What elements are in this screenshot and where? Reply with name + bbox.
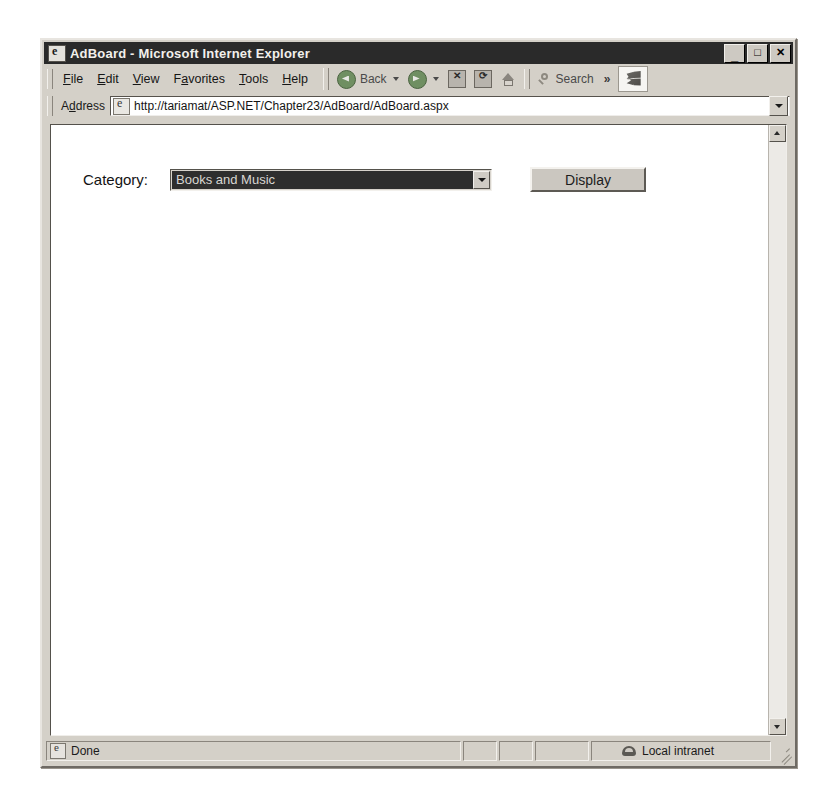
menu-item-edit[interactable]: Edit bbox=[90, 70, 126, 88]
forward-arrow-icon bbox=[408, 70, 427, 89]
page-icon bbox=[113, 98, 130, 115]
home-button[interactable] bbox=[496, 70, 521, 89]
chevron-down-icon[interactable] bbox=[473, 171, 490, 189]
browser-window: AdBoard - Microsoft Internet Explorer _ … bbox=[40, 38, 797, 768]
address-input[interactable]: http://tariamat/ASP.NET/Chapter23/AdBoar… bbox=[110, 96, 790, 116]
menu-item-tools[interactable]: Tools bbox=[232, 70, 275, 88]
status-message: Done bbox=[71, 744, 100, 758]
minimize-button[interactable]: _ bbox=[724, 44, 745, 63]
search-icon bbox=[537, 72, 552, 87]
window-title: AdBoard - Microsoft Internet Explorer bbox=[70, 46, 722, 61]
search-button-label: Search bbox=[556, 72, 594, 86]
back-arrow-icon bbox=[337, 70, 356, 89]
title-bar[interactable]: AdBoard - Microsoft Internet Explorer _ … bbox=[44, 42, 793, 64]
security-zone-label: Local intranet bbox=[642, 744, 714, 758]
close-icon: ✕ bbox=[771, 45, 790, 60]
status-cell-blank-1 bbox=[463, 741, 497, 761]
status-bar: Done Local intranet bbox=[46, 740, 791, 762]
minimize-icon: _ bbox=[725, 51, 744, 61]
status-cell-blank-3 bbox=[535, 741, 589, 761]
address-bar: Address http://tariamat/ASP.NET/Chapter2… bbox=[44, 93, 793, 119]
home-icon bbox=[500, 72, 517, 87]
page-viewport: Category: Books and Music Display bbox=[50, 124, 787, 736]
status-message-cell: Done bbox=[46, 741, 461, 761]
category-form-row: Category: Books and Music Display bbox=[83, 167, 646, 192]
window-icon bbox=[48, 45, 66, 62]
stop-icon: ✕ bbox=[448, 70, 466, 88]
forward-button[interactable] bbox=[404, 68, 431, 91]
category-selected-value: Books and Music bbox=[172, 171, 473, 189]
address-url-text: http://tariamat/ASP.NET/Chapter23/AdBoar… bbox=[134, 99, 769, 113]
back-button[interactable]: Back bbox=[333, 68, 391, 91]
toolbar-overflow-button[interactable]: » bbox=[598, 72, 617, 86]
windows-logo-icon[interactable] bbox=[618, 66, 648, 92]
stop-button[interactable]: ✕ bbox=[444, 68, 470, 90]
back-history-chevron-down-icon[interactable] bbox=[393, 77, 399, 81]
menu-item-help[interactable]: Help bbox=[275, 70, 315, 88]
search-group-handle[interactable] bbox=[524, 69, 530, 89]
address-chevron-down-icon[interactable] bbox=[769, 96, 788, 116]
document-icon bbox=[50, 743, 66, 759]
menu-toolbar-row: File Edit View Favorites Tools Help Back… bbox=[44, 65, 793, 93]
display-button[interactable]: Display bbox=[530, 167, 646, 192]
scrollbar-track[interactable] bbox=[769, 142, 786, 718]
back-button-label: Back bbox=[360, 72, 387, 86]
status-cell-blank-2 bbox=[499, 741, 533, 761]
refresh-button[interactable]: ⟳ bbox=[470, 68, 496, 90]
menu-item-favorites[interactable]: Favorites bbox=[167, 70, 232, 88]
refresh-icon: ⟳ bbox=[474, 70, 492, 88]
refresh-glyph: ⟳ bbox=[475, 70, 491, 81]
screen: AdBoard - Microsoft Internet Explorer _ … bbox=[0, 0, 833, 800]
stop-glyph: ✕ bbox=[449, 70, 465, 81]
address-label: Address bbox=[56, 99, 110, 113]
security-zone-cell[interactable]: Local intranet bbox=[591, 741, 771, 761]
local-intranet-icon bbox=[622, 745, 637, 758]
scroll-down-button[interactable] bbox=[769, 718, 786, 735]
page-content: Category: Books and Music Display bbox=[51, 125, 768, 735]
toolbar-drag-handle[interactable] bbox=[323, 68, 329, 90]
menu-item-view[interactable]: View bbox=[126, 70, 167, 88]
scroll-up-button[interactable] bbox=[769, 125, 786, 142]
page-vertical-scrollbar[interactable] bbox=[768, 125, 786, 735]
address-drag-handle[interactable] bbox=[47, 96, 53, 116]
menu-item-file[interactable]: File bbox=[56, 70, 90, 88]
maximize-button[interactable]: □ bbox=[747, 44, 768, 63]
category-dropdown[interactable]: Books and Music bbox=[170, 169, 492, 191]
search-button[interactable]: Search bbox=[533, 70, 598, 89]
maximize-icon: □ bbox=[748, 45, 767, 60]
forward-history-chevron-down-icon[interactable] bbox=[433, 77, 439, 81]
menu-drag-handle[interactable] bbox=[47, 69, 53, 89]
resize-grip[interactable] bbox=[775, 743, 791, 759]
close-button[interactable]: ✕ bbox=[770, 44, 791, 63]
category-label: Category: bbox=[83, 171, 148, 188]
